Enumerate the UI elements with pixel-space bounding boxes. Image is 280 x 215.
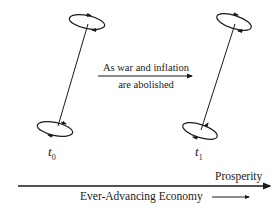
economy-label: Ever-Advancing Economy (80, 191, 203, 203)
t1-subscript: 1 (199, 153, 203, 162)
diagram-canvas (0, 0, 280, 215)
spinning-top-t0 (36, 12, 106, 139)
transition-label-line2: are abolished (96, 80, 196, 91)
transition-label-line1: As war and inflation (96, 63, 196, 74)
time-label-t1: t1 (195, 145, 203, 162)
prosperity-label: Prosperity (215, 171, 262, 183)
time-label-t0: t0 (48, 145, 56, 162)
t0-subscript: 0 (52, 153, 56, 162)
